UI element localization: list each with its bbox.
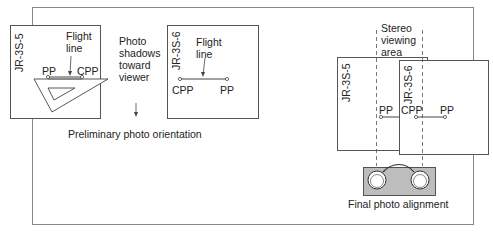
shadow-note-2: shadows	[119, 47, 160, 59]
cpp-label: CPP	[401, 104, 423, 116]
pp-point	[225, 77, 228, 80]
stereo-area-label-3: area	[381, 46, 402, 58]
shadow-note-3: toward	[119, 59, 151, 71]
photo-id-label: JR-3S-5	[340, 63, 352, 102]
shadow-note-1: Photo	[119, 35, 146, 47]
stereoscope-icon	[364, 165, 436, 196]
cpp-label: CPP	[77, 65, 99, 77]
final-caption: Final photo alignment	[348, 198, 448, 210]
down-arrow-icon	[134, 112, 138, 117]
photo-id-label: JR-3S-5	[13, 33, 25, 72]
flight-line-label-2: line	[196, 48, 212, 60]
flight-line-label-1: Flight	[66, 30, 92, 42]
pp-label: PP	[440, 104, 454, 116]
flight-line-label-2: line	[66, 42, 82, 54]
pp-label: PP	[379, 104, 393, 116]
photo-id-label: JR-3S-6	[402, 65, 414, 104]
preliminary-caption: Preliminary photo orientation	[68, 128, 202, 140]
cpp-point	[178, 77, 181, 80]
stereo-area-label-2: viewing	[381, 34, 416, 46]
pp-label: PP	[42, 65, 56, 77]
pp-label: PP	[220, 84, 234, 96]
cpp-label: CPP	[172, 84, 194, 96]
flight-line-label-1: Flight	[196, 36, 222, 48]
photo-id-label: JR-3S-6	[170, 31, 182, 70]
stereo-area-label-1: Stereo	[381, 22, 412, 34]
shadow-note-4: viewer	[119, 71, 149, 83]
